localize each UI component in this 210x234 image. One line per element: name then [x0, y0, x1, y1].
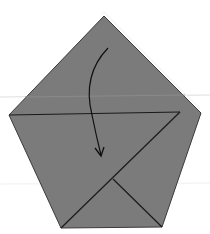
pentagon-paper: [9, 16, 201, 228]
origami-diagram: [0, 0, 210, 234]
